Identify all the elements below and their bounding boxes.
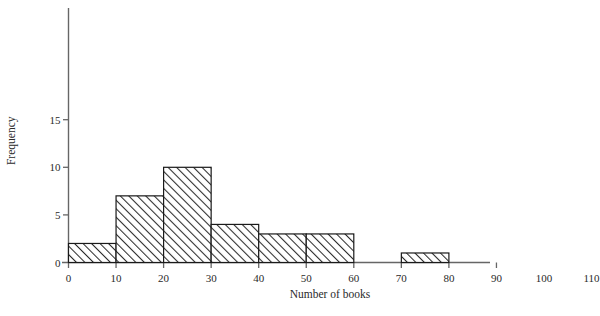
x-tick-label: 20 [158,273,169,284]
x-tick-label: 90 [491,273,502,284]
histogram-bar [116,196,164,263]
x-tick-label: 80 [443,273,454,284]
y-tick-label: 5 [42,209,61,220]
y-tick-label: 15 [42,114,61,125]
x-axis-ticks [69,263,526,269]
x-tick-label: 0 [66,273,72,284]
x-tick-label: 100 [536,273,553,284]
x-tick-label: 50 [301,273,312,284]
x-tick-label: 10 [111,273,122,284]
y-axis-title: Frequency [6,111,18,171]
x-axis-title: Number of books [290,289,371,301]
histogram-bar [259,234,307,263]
y-tick-label: 10 [42,162,61,173]
histogram-bars [69,167,526,262]
y-tick-label: 0 [42,257,61,268]
x-tick-label: 70 [396,273,407,284]
x-tick-label: 110 [584,273,600,284]
histogram-bar [401,253,449,263]
x-tick-label: 40 [253,273,264,284]
histogram-bar [69,243,117,262]
histogram-bar [164,167,212,262]
histogram-bar [306,234,354,263]
y-axis-ticks [63,120,69,215]
x-tick-label: 30 [206,273,217,284]
x-tick-label: 60 [348,273,359,284]
histogram-bar [211,224,259,262]
